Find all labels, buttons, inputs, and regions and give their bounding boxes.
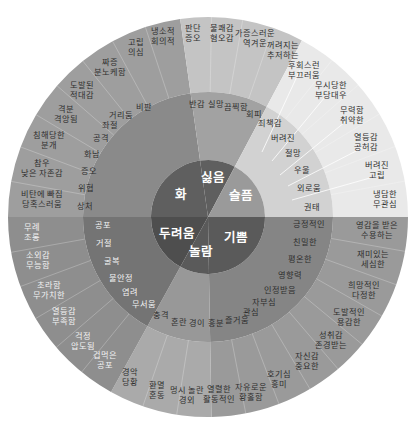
core-label-disgust: 싫음 — [201, 170, 225, 185]
middle-emotion-label: 흥분 — [208, 318, 224, 328]
middle-emotion-label: 거절 — [96, 238, 112, 248]
middle-emotion-label: 외로움 — [297, 183, 321, 193]
outer-emotion-label: 판단증오 — [185, 23, 201, 43]
middle-emotion-label: 불안정 — [109, 273, 133, 283]
outer-emotion-label: 열등감부족함 — [52, 306, 76, 326]
outer-emotion-label: 희망적인다정한 — [348, 280, 380, 300]
middle-emotion-label: 평온한 — [288, 254, 312, 264]
middle-emotion-label: 충격 — [153, 310, 169, 320]
outer-emotion-label: 무례조롱 — [24, 222, 40, 242]
middle-emotion-label: 화남 — [84, 149, 100, 159]
outer-emotion-label: 초라함무가치한 — [33, 280, 65, 300]
middle-emotion-label: 즐거움 — [225, 315, 249, 325]
outer-emotion-label: 자유로운황홀함 — [235, 382, 267, 402]
middle-emotion-label: 위협 — [78, 183, 94, 193]
middle-emotion-label: 버려진 — [271, 133, 295, 143]
middle-emotion-label: 긍정적인 — [293, 219, 325, 229]
core-label-surprise: 놀람 — [189, 244, 213, 259]
wheel-sectors — [8, 17, 408, 417]
outer-emotion-label: 자신감중요한 — [295, 351, 319, 371]
outer-emotion-label: 무시당한부당대우 — [315, 80, 347, 100]
outer-emotion-label: 소외감무능함 — [26, 250, 50, 270]
core-label-sadness: 슬픔 — [229, 188, 253, 203]
middle-emotion-label: 공격 — [93, 133, 109, 143]
outer-emotion-label: 열등감공허감 — [354, 132, 378, 152]
middle-emotion-label: 무서움 — [132, 299, 156, 309]
core-label-anger: 화 — [175, 187, 187, 202]
middle-emotion-label: 비판 — [136, 102, 152, 112]
outer-emotion-label: 후회스런부끄러움 — [288, 60, 320, 80]
middle-emotion-label: 영향력 — [278, 270, 302, 280]
outer-emotion-label: 냉담한무관심 — [373, 189, 397, 209]
core-label-joy: 기쁨 — [224, 230, 248, 245]
middle-emotion-label: 친밀한 — [293, 237, 317, 247]
outer-emotion-label: 영감을 받은수용하는 — [356, 220, 399, 240]
middle-emotion-label: 경이 — [189, 318, 205, 328]
middle-emotion-label: 절망 — [285, 148, 301, 158]
middle-emotion-label: 거리둠 — [109, 110, 133, 120]
outer-emotion-label: 도발된적대감 — [70, 80, 94, 100]
outer-emotion-label: 고립의심 — [128, 37, 144, 57]
middle-emotion-label: 인정받음 — [264, 285, 296, 295]
outer-emotion-label: 열렬한활동적인 — [203, 384, 235, 404]
outer-emotion-label: 재미있는세심한 — [357, 249, 389, 269]
middle-emotion-label: 우울 — [294, 165, 310, 175]
middle-emotion-label: 혼란 — [171, 317, 187, 327]
middle-emotion-label: 굴복 — [104, 256, 120, 266]
middle-emotion-label: 상처 — [77, 201, 93, 211]
middle-emotion-label: 실망 — [208, 99, 224, 109]
middle-emotion-label: 반감 — [189, 99, 205, 109]
outer-emotion-label: 꺼려지는추저하는 — [267, 40, 299, 60]
outer-emotion-label: 무력함취약한 — [340, 105, 364, 125]
outer-emotion-label: 환멸혼동 — [149, 380, 165, 400]
middle-emotion-label: 자부심 — [252, 297, 276, 307]
emotion-wheel: 비판거리둠좌절공격화남증오위협상처반감실망끔찍함회피죄책감버려진절망우울외로움권… — [0, 0, 416, 429]
outer-emotion-label: 비탄에 빠짐당혹스러움 — [21, 189, 64, 209]
outer-emotion-label: 성취감존경받는 — [315, 330, 347, 350]
outer-emotion-label: 도발적인용감한 — [333, 307, 365, 327]
middle-emotion-label: 끔찍함 — [224, 102, 248, 112]
middle-emotion-label: 권태 — [304, 202, 320, 212]
outer-emotion-label: 냉소적회의적 — [151, 26, 175, 46]
outer-emotion-label: 경악당황 — [122, 367, 138, 387]
middle-emotion-label: 좌절 — [102, 120, 118, 130]
core-label-fear: 두려움 — [159, 226, 195, 241]
middle-emotion-label: 증오 — [81, 166, 97, 176]
middle-emotion-label: 공포 — [95, 220, 111, 230]
outer-emotion-label: 불쾌감혐오감 — [210, 23, 234, 43]
middle-emotion-label: 염려 — [122, 287, 138, 297]
middle-emotion-label: 죄책감 — [258, 118, 282, 128]
